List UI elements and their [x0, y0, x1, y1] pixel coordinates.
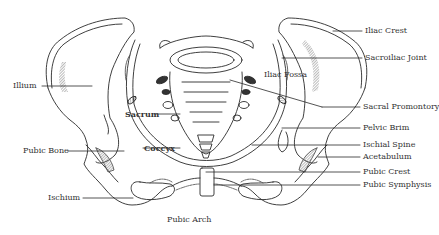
right-obturator: [239, 182, 282, 200]
label-coccyx: Coccyx: [144, 143, 175, 153]
label-pelvic-brim: Pelvic Brim: [363, 123, 409, 133]
label-pubic-bone: Pubic Bone: [23, 146, 69, 156]
coccyx: [198, 135, 214, 142]
label-ischium: Ischium: [48, 193, 80, 203]
label-ischial-spine: Ischial Spine: [363, 140, 415, 150]
label-sacrum: Sacrum: [125, 109, 159, 119]
sacral-base: [160, 36, 253, 48]
left-ilium-inner-hatch: [59, 62, 68, 92]
left-ilium: [46, 18, 134, 163]
label-acetabulum: Acetabulum: [363, 152, 412, 162]
label-iliac-crest: Iliac Crest: [365, 26, 407, 36]
label-sacral-promontory: Sacral Promontory: [363, 102, 439, 112]
label-pubic-arch: Pubic Arch: [167, 215, 211, 225]
label-pubic-crest: Pubic Crest: [363, 167, 410, 177]
label-iliac-fossa: Iliac Fossa: [264, 70, 307, 80]
left-obturator: [131, 182, 174, 200]
right-ilium: [279, 18, 367, 163]
label-sacroiliac-joint: Sacroiliac Joint: [365, 53, 427, 63]
sacral-promontory: [170, 47, 242, 73]
label-illium: Illium: [13, 81, 37, 91]
label-pubic-symphysis: Pubic Symphysis: [363, 180, 431, 190]
